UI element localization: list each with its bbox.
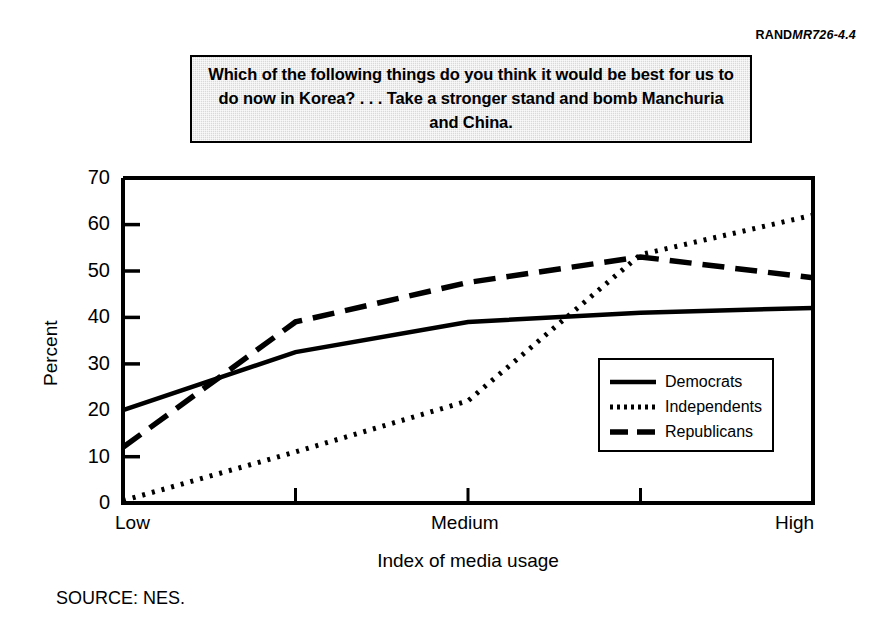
axis-frame [123, 178, 813, 503]
y-tick-label-30: 30 [60, 352, 110, 375]
y-tick-label-10: 10 [60, 445, 110, 468]
y-tick-label-20: 20 [60, 398, 110, 421]
x-tick-label-high: High [775, 512, 814, 534]
legend-label-independents: Independents [665, 399, 762, 415]
y-axis-ticks [123, 225, 140, 457]
plot-area: 70 60 50 40 30 20 10 0 Percent Low Mediu… [0, 0, 874, 626]
legend-label-republicans: Republicans [665, 424, 753, 440]
y-tick-label-60: 60 [60, 212, 110, 235]
source-note: SOURCE: NES. [56, 588, 185, 609]
legend-label-democrats: Democrats [665, 374, 742, 390]
x-axis-ticks [296, 488, 641, 503]
legend-item-republicans: Republicans [610, 419, 762, 444]
legend-item-independents: Independents [610, 394, 762, 419]
x-axis-title: Index of media usage [123, 550, 813, 572]
y-tick-label-70: 70 [60, 166, 110, 189]
y-tick-label-40: 40 [60, 305, 110, 328]
legend-swatch-dotted-icon [610, 400, 656, 414]
x-tick-label-low: Low [115, 512, 150, 534]
figure-root: RANDMR726-4.4 Which of the following thi… [0, 0, 874, 626]
legend-item-democrats: Democrats [610, 369, 762, 394]
y-axis-title: Percent [40, 321, 62, 386]
y-tick-label-50: 50 [60, 259, 110, 282]
x-tick-label-medium: Medium [431, 512, 499, 534]
legend-swatch-dashed-icon [610, 425, 656, 439]
chart-legend: Democrats Independents Republicans [598, 358, 774, 452]
legend-swatch-solid-icon [610, 375, 656, 389]
y-tick-label-0: 0 [60, 491, 110, 514]
